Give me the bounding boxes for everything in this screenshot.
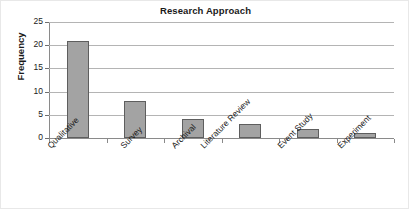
gridline — [49, 68, 394, 69]
x-axis-tick-mark — [394, 139, 395, 143]
bar-chart: Research Approach Frequency 2520151050 Q… — [0, 0, 409, 209]
y-axis-tick-mark — [45, 115, 49, 116]
y-axis-tick-label: 20 — [21, 40, 43, 49]
y-axis-tick-labels: 2520151050 — [21, 1, 43, 209]
bar — [239, 124, 261, 138]
y-axis-tick-mark — [45, 68, 49, 69]
y-axis-tick-mark — [45, 45, 49, 46]
x-axis-tick-mark — [164, 139, 165, 143]
gridline — [49, 22, 394, 23]
y-axis-tick-mark — [45, 92, 49, 93]
y-axis-tick-label: 0 — [21, 133, 43, 142]
x-axis-tick-mark — [107, 139, 108, 143]
y-axis-tick-mark — [45, 138, 49, 139]
y-axis-tick-label: 10 — [21, 87, 43, 96]
gridline — [49, 115, 394, 116]
x-axis-tick-mark — [222, 139, 223, 143]
chart-title: Research Approach — [1, 5, 409, 16]
gridline — [49, 45, 394, 46]
gridline — [49, 92, 394, 93]
y-axis-tick-label: 5 — [21, 110, 43, 119]
y-axis-tick-mark — [45, 22, 49, 23]
y-axis-tick-label: 25 — [21, 17, 43, 26]
y-axis-tick-label: 15 — [21, 63, 43, 72]
